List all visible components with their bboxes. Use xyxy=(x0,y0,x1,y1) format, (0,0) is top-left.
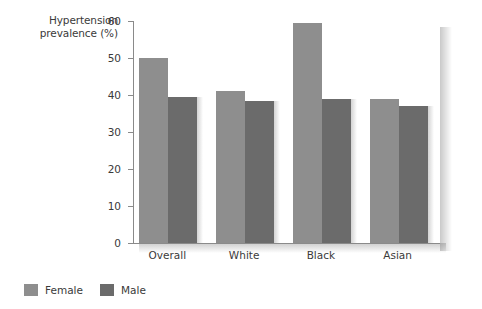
y-axis-tick-label: 20 xyxy=(95,164,121,174)
x-axis-label-asian: Asian xyxy=(359,249,436,261)
bar-white-male xyxy=(245,101,274,243)
legend-label-female: Female xyxy=(45,284,83,296)
legend-entry-male: Male xyxy=(100,284,146,296)
bar-chart-figure: Hypertension prevalence (%) 010203040506… xyxy=(0,0,482,309)
y-axis-tick-mark xyxy=(128,206,133,207)
bar-black-male xyxy=(322,99,351,243)
y-axis-tick-label: 30 xyxy=(95,127,121,137)
y-axis-tick-label: 0 xyxy=(95,238,121,248)
x-axis-label-black: Black xyxy=(283,249,360,261)
legend-swatch-male-icon xyxy=(100,284,114,296)
bar-overall-female xyxy=(139,58,168,243)
y-axis-tick-mark xyxy=(128,58,133,59)
y-axis-tick-label: 50 xyxy=(95,53,121,63)
y-axis-tick-mark xyxy=(128,21,133,22)
y-axis-tick-label: 40 xyxy=(95,90,121,100)
y-axis-tick-label: 10 xyxy=(95,201,121,211)
bar-white-female xyxy=(216,91,245,243)
legend-entry-female: Female xyxy=(24,284,83,296)
y-axis-line xyxy=(133,21,134,243)
panel-shadow-right xyxy=(440,27,452,251)
bar-asian-male xyxy=(399,106,428,243)
y-axis-tick-label: 60 xyxy=(95,16,121,26)
bar-overall-male xyxy=(168,97,197,243)
y-axis-tick-mark xyxy=(128,132,133,133)
y-axis-tick-mark xyxy=(128,243,133,244)
bar-asian-female xyxy=(370,99,399,243)
y-axis-title-line-2: prevalence (%) xyxy=(18,27,118,40)
x-axis-label-overall: Overall xyxy=(129,249,206,261)
x-axis-line xyxy=(133,243,440,244)
legend-swatch-female-icon xyxy=(24,284,38,296)
chart-legend: Female Male xyxy=(24,284,163,296)
y-axis-tick-mark xyxy=(128,169,133,170)
bar-black-female xyxy=(293,23,322,243)
legend-label-male: Male xyxy=(121,284,146,296)
x-axis-label-white: White xyxy=(206,249,283,261)
y-axis-tick-mark xyxy=(128,95,133,96)
